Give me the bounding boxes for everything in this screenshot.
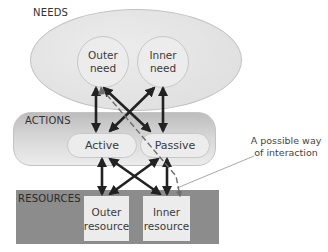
arrow-outer-need-passive [104,88,150,131]
arrows-layer [0,0,328,252]
annotation-leader-line [177,156,254,188]
